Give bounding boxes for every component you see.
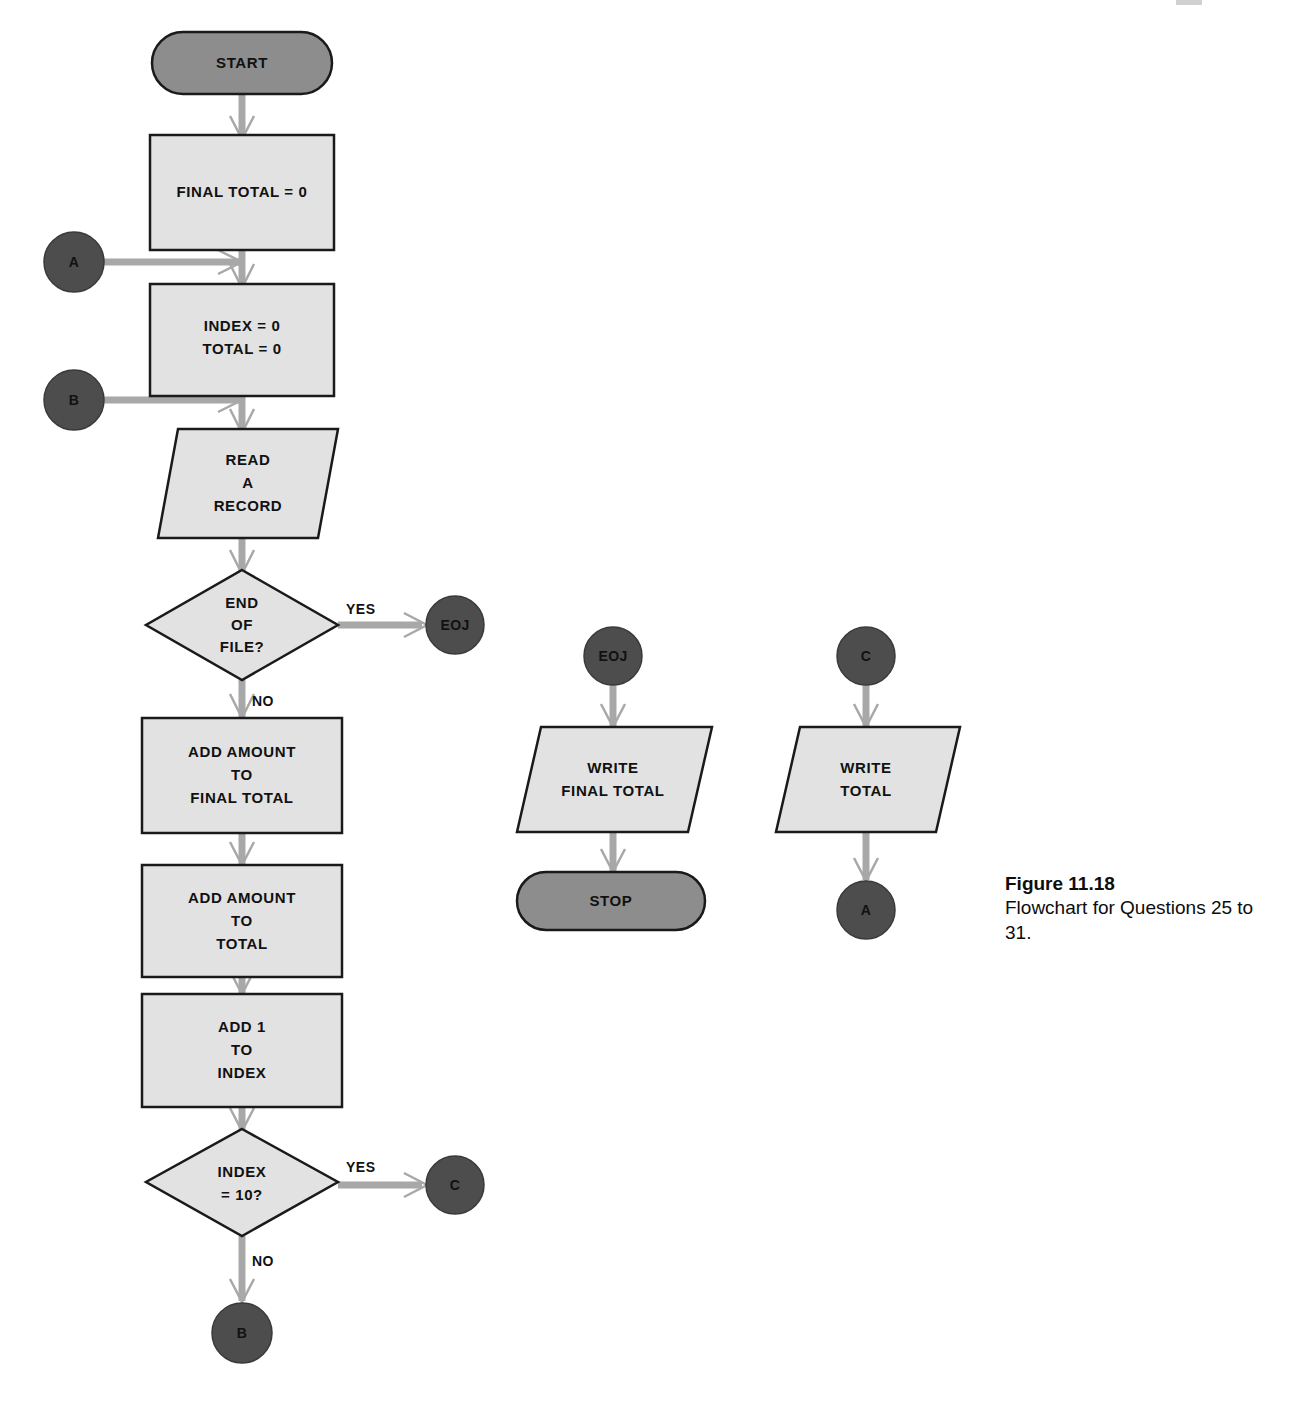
node-add-index[interactable]: ADD 1 TO INDEX bbox=[142, 994, 342, 1107]
node-end-of-file-line1: END bbox=[225, 594, 258, 611]
branch-label-yes-index-is-10: YES bbox=[346, 1159, 376, 1175]
arrow-end-of-file-no-to-add-final-total bbox=[230, 680, 254, 718]
branch-label-no-end-of-file: NO bbox=[252, 693, 274, 709]
figure-caption-title: Figure 11.18 bbox=[1005, 872, 1255, 896]
node-connector-eoj-1-label: EOJ bbox=[440, 617, 469, 633]
node-connector-c-in-label: C bbox=[861, 648, 872, 664]
node-connector-a-out-label: A bbox=[861, 902, 872, 918]
arrow-add-final-total-to-add-total bbox=[230, 833, 254, 865]
arrow-write-final-total-to-stop bbox=[601, 832, 625, 872]
flow-arrows: EOJ --> ADD AMOUNT TO FINAL TOTAL --> bbox=[104, 94, 878, 1302]
node-add-final-total-line2: TO bbox=[231, 766, 253, 783]
figure-caption-text: Flowchart for Questions 25 to 31. bbox=[1005, 896, 1255, 945]
figure-caption: Figure 11.18 Flowchart for Questions 25 … bbox=[1005, 872, 1255, 945]
node-connector-eoj-1[interactable]: EOJ bbox=[426, 596, 484, 654]
node-add-final-total[interactable]: ADD AMOUNT TO FINAL TOTAL bbox=[142, 718, 342, 833]
node-write-total-line1: WRITE bbox=[840, 759, 891, 776]
node-start-label: START bbox=[216, 54, 268, 71]
node-read-record[interactable]: READ A RECORD bbox=[158, 429, 338, 538]
node-final-total-label: FINAL TOTAL = 0 bbox=[177, 183, 308, 200]
node-index-total-line2: TOTAL = 0 bbox=[202, 340, 281, 357]
branch-label-no-index-is-10: NO bbox=[252, 1253, 274, 1269]
node-write-final-total-line1: WRITE bbox=[587, 759, 638, 776]
arrow-index-is-10-yes-to-connector-c bbox=[338, 1173, 427, 1197]
node-add-total[interactable]: ADD AMOUNT TO TOTAL bbox=[142, 865, 342, 977]
node-write-final-total-line2: FINAL TOTAL bbox=[561, 782, 664, 799]
node-index-is-10[interactable]: INDEX = 10? bbox=[146, 1129, 338, 1236]
node-write-total[interactable]: WRITE TOTAL bbox=[776, 727, 960, 832]
node-connector-a-in[interactable]: A bbox=[44, 232, 104, 292]
node-add-final-total-line3: FINAL TOTAL bbox=[190, 789, 293, 806]
node-final-total[interactable]: FINAL TOTAL = 0 bbox=[150, 135, 334, 250]
arrow-final-total-to-index-total bbox=[230, 250, 254, 288]
node-connector-eoj-2[interactable]: EOJ bbox=[584, 627, 642, 685]
node-connector-b-in[interactable]: B bbox=[44, 370, 104, 430]
node-write-total-line2: TOTAL bbox=[840, 782, 892, 799]
node-connector-a-in-label: A bbox=[69, 254, 80, 270]
node-write-final-total[interactable]: WRITE FINAL TOTAL bbox=[517, 727, 712, 832]
node-stop-label: STOP bbox=[590, 892, 633, 909]
arrow-start-to-final-total bbox=[230, 94, 254, 139]
node-add-index-line2: TO bbox=[231, 1041, 253, 1058]
node-end-of-file-line2: OF bbox=[231, 616, 253, 633]
node-connector-c-in[interactable]: C bbox=[837, 627, 895, 685]
node-add-total-line3: TOTAL bbox=[216, 935, 268, 952]
node-read-record-line1: READ bbox=[226, 451, 271, 468]
node-add-index-line1: ADD 1 bbox=[218, 1018, 266, 1035]
node-connector-eoj-2-label: EOJ bbox=[598, 648, 627, 664]
branch-label-yes-end-of-file: YES bbox=[346, 601, 376, 617]
arrow-index-is-10-no-to-connector-b bbox=[230, 1236, 254, 1302]
node-end-of-file-line3: FILE? bbox=[220, 638, 265, 655]
arrow-connector-c-to-write-total bbox=[854, 685, 878, 727]
arrow-eoj-to-write-final-total bbox=[601, 685, 625, 727]
node-add-index-line3: INDEX bbox=[218, 1064, 267, 1081]
node-connector-b-out[interactable]: B bbox=[212, 1303, 272, 1363]
node-index-is-10-line1: INDEX bbox=[218, 1163, 267, 1180]
node-start[interactable]: START bbox=[152, 32, 332, 94]
node-connector-b-in-label: B bbox=[69, 392, 80, 408]
arrow-connector-a-to-index-total bbox=[104, 250, 242, 274]
node-add-total-line2: TO bbox=[231, 912, 253, 929]
node-connector-a-out[interactable]: A bbox=[837, 881, 895, 939]
node-index-total-line1: INDEX = 0 bbox=[204, 317, 281, 334]
arrow-write-total-to-connector-a bbox=[854, 832, 878, 881]
node-add-total-line1: ADD AMOUNT bbox=[188, 889, 296, 906]
node-stop[interactable]: STOP bbox=[517, 872, 705, 930]
node-add-final-total-line1: ADD AMOUNT bbox=[188, 743, 296, 760]
node-index-total[interactable]: INDEX = 0 TOTAL = 0 bbox=[150, 284, 334, 396]
node-connector-c-out-label: C bbox=[450, 1177, 461, 1193]
node-read-record-line3: RECORD bbox=[214, 497, 283, 514]
node-end-of-file[interactable]: END OF FILE? bbox=[146, 570, 338, 680]
node-read-record-line2: A bbox=[242, 474, 253, 491]
arrow-add-index-to-index-is-10 bbox=[230, 1106, 254, 1131]
figure-page: EOJ --> ADD AMOUNT TO FINAL TOTAL --> bbox=[0, 0, 1305, 1418]
node-connector-b-out-label: B bbox=[237, 1325, 248, 1341]
node-index-is-10-line2: = 10? bbox=[221, 1186, 263, 1203]
node-connector-c-out[interactable]: C bbox=[426, 1156, 484, 1214]
flowchart-canvas: EOJ --> ADD AMOUNT TO FINAL TOTAL --> bbox=[0, 0, 1305, 1418]
